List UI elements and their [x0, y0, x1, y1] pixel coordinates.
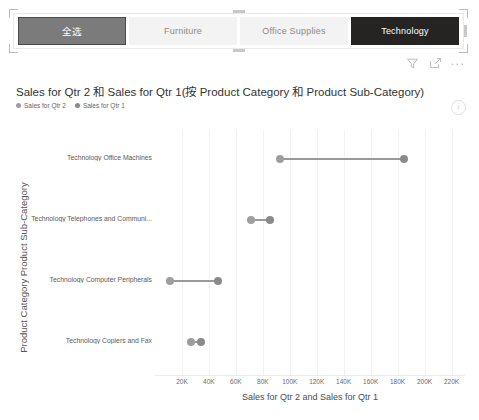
x-axis-tick-label: 120K	[309, 378, 324, 385]
resize-handle-top-middle[interactable]	[233, 10, 245, 13]
slicer-item-furniture[interactable]: Furniture	[129, 17, 237, 45]
dumbbell-row[interactable]	[155, 337, 465, 347]
dumbbell-connector	[280, 158, 404, 160]
focus-mode-icon[interactable]	[428, 56, 442, 70]
data-point-qtr2[interactable]	[247, 216, 255, 224]
dumbbell-connector	[170, 280, 219, 282]
data-point-qtr2[interactable]	[187, 338, 195, 346]
slicer-item-list: 全选 Furniture Office Supplies Technology	[18, 17, 459, 45]
filter-icon[interactable]	[405, 56, 419, 70]
x-axis-tick-label: 100K	[282, 378, 297, 385]
resize-handle-bottom-left[interactable]	[9, 44, 18, 53]
slicer-item-select-all[interactable]: 全选	[18, 17, 126, 45]
more-options-label: ...	[451, 58, 466, 69]
slicer-item-technology[interactable]: Technology	[351, 17, 459, 45]
dumbbell-row[interactable]	[155, 276, 465, 286]
x-axis-tick-label: 80K	[257, 378, 269, 385]
x-axis-tick-labels: 20K40K60K80K100K120K140K160K180K200K220K	[155, 378, 465, 390]
y-axis-tick-label: Technology Office Machines	[27, 154, 152, 161]
resize-handle-bottom-middle[interactable]	[233, 49, 245, 52]
y-axis-tick-label: Technology Computer Peripherals	[27, 276, 152, 283]
y-axis-tick-label: Technology Copiers and Fax	[27, 337, 152, 344]
data-point-qtr1[interactable]	[197, 338, 205, 346]
slicer-item-label: 全选	[62, 24, 82, 38]
x-axis-tick-label: 180K	[390, 378, 405, 385]
resize-handle-top-right[interactable]	[459, 9, 468, 18]
y-axis-tick-label: Technology Telephones and Communi...	[27, 215, 152, 222]
dumbbell-row[interactable]	[155, 215, 465, 225]
data-point-qtr2[interactable]	[276, 155, 284, 163]
visual-header-toolbar: ...	[405, 55, 465, 71]
data-point-qtr2[interactable]	[166, 277, 174, 285]
plot-wrapper: Product Category Product Sub-Category Te…	[0, 72, 479, 420]
dumbbell-chart-visual: Sales for Qtr 2 和 Sales for Qtr 1(按 Prod…	[0, 72, 479, 420]
more-options-icon[interactable]: ...	[451, 56, 465, 70]
resize-handle-bottom-right[interactable]	[459, 44, 468, 53]
slicer-item-office-supplies[interactable]: Office Supplies	[240, 17, 348, 45]
x-axis-tick-label: 60K	[230, 378, 242, 385]
slicer-item-label: Furniture	[164, 26, 202, 36]
x-axis-title: Sales for Qtr 2 and Sales for Qtr 1	[155, 392, 465, 402]
x-axis-line	[155, 375, 465, 376]
slicer-item-label: Technology	[381, 26, 429, 36]
x-axis-tick-label: 140K	[336, 378, 351, 385]
slicer-item-label: Office Supplies	[262, 26, 325, 36]
x-axis-tick-label: 40K	[203, 378, 215, 385]
resize-handle-right-middle[interactable]	[464, 25, 467, 37]
x-axis-tick-label: 200K	[417, 378, 432, 385]
dumbbell-row[interactable]	[155, 154, 465, 164]
y-axis-tick-labels: Technology Office Machines Technology Te…	[26, 72, 152, 420]
product-category-slicer[interactable]: 全选 Furniture Office Supplies Technology	[13, 13, 464, 49]
data-point-qtr1[interactable]	[266, 216, 274, 224]
x-axis-tick-label: 20K	[176, 378, 188, 385]
plot-area	[155, 130, 465, 375]
x-axis-tick-label: 220K	[444, 378, 459, 385]
data-point-qtr1[interactable]	[400, 155, 408, 163]
data-point-qtr1[interactable]	[214, 277, 222, 285]
resize-handle-top-left[interactable]	[9, 9, 18, 18]
x-axis-tick-label: 160K	[363, 378, 378, 385]
